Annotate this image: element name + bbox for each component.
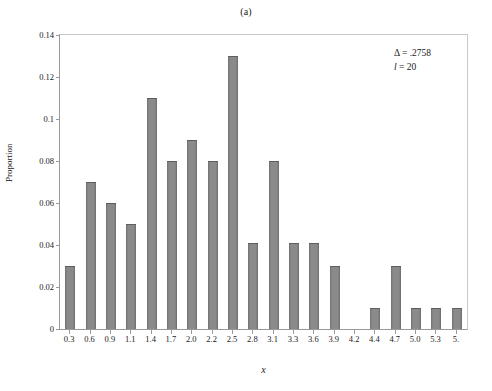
x-tick-mark xyxy=(69,330,70,334)
x-tick-label: 3.1 xyxy=(267,334,278,344)
x-tick-mark xyxy=(374,330,375,334)
figure-container: (a) Proportion 00.020.040.060.080.10.120… xyxy=(0,0,492,391)
x-tick-mark xyxy=(354,330,355,334)
x-tick-mark xyxy=(171,330,172,334)
x-tick-label: 0.9 xyxy=(105,334,116,344)
bar xyxy=(431,308,441,329)
bar xyxy=(65,266,75,329)
x-tick-label: 3.9 xyxy=(328,334,339,344)
x-tick-mark xyxy=(110,330,111,334)
bar xyxy=(187,140,197,329)
x-tick-label: 2.8 xyxy=(247,334,258,344)
bar xyxy=(309,243,319,329)
annotation-l: l = 20 xyxy=(394,60,431,74)
bar xyxy=(126,224,136,329)
x-tick-label: 0.3 xyxy=(64,334,75,344)
y-axis-title: Proportion xyxy=(4,143,14,182)
x-axis-title: x xyxy=(59,364,468,375)
x-tick-mark xyxy=(313,330,314,334)
x-tick-mark xyxy=(191,330,192,334)
x-tick-label: 5.3 xyxy=(430,334,441,344)
x-tick-mark xyxy=(395,330,396,334)
x-tick-mark xyxy=(90,330,91,334)
x-tick-label: 1.7 xyxy=(166,334,177,344)
panel-title: (a) xyxy=(0,6,492,17)
x-tick-label: 4.4 xyxy=(369,334,380,344)
bar xyxy=(167,161,177,329)
x-tick-label: 0.6 xyxy=(84,334,95,344)
y-tick-mark xyxy=(56,329,60,330)
x-tick-label: 3.3 xyxy=(288,334,299,344)
x-tick-label: 4.2 xyxy=(349,334,360,344)
plot-area: 00.020.040.060.080.10.120.14 xyxy=(59,34,468,330)
bars-layer xyxy=(60,35,467,329)
x-tick-mark xyxy=(252,330,253,334)
annotation-delta: Δ = .2758 xyxy=(394,46,431,60)
bar xyxy=(330,266,340,329)
bar xyxy=(411,308,421,329)
bar xyxy=(86,182,96,329)
chart-annotation: Δ = .2758 l = 20 xyxy=(394,46,431,74)
x-tick-label: 4.7 xyxy=(389,334,400,344)
bar xyxy=(269,161,279,329)
x-tick-mark xyxy=(151,330,152,334)
x-tick-label: 2.0 xyxy=(186,334,197,344)
bar xyxy=(106,203,116,329)
x-tick-mark xyxy=(334,330,335,334)
bar xyxy=(208,161,218,329)
x-tick-label: 3.6 xyxy=(308,334,319,344)
x-tick-mark xyxy=(415,330,416,334)
x-tick-mark xyxy=(273,330,274,334)
x-tick-mark xyxy=(232,330,233,334)
bar xyxy=(391,266,401,329)
bar xyxy=(248,243,258,329)
x-tick-label: 1.1 xyxy=(125,334,136,344)
x-tick-mark xyxy=(130,330,131,334)
bar xyxy=(452,308,462,329)
x-tick-label: 2.2 xyxy=(206,334,217,344)
bar xyxy=(370,308,380,329)
x-tick-mark xyxy=(293,330,294,334)
x-tick-label: 5. xyxy=(453,334,459,344)
x-tick-label: 1.4 xyxy=(145,334,156,344)
annotation-l-value: = 20 xyxy=(397,62,417,72)
x-tick-mark xyxy=(212,330,213,334)
x-tick-label: 2.5 xyxy=(227,334,238,344)
bar xyxy=(228,56,238,329)
x-tick-mark xyxy=(456,330,457,334)
x-tick-label: 5.0 xyxy=(410,334,421,344)
x-tick-mark xyxy=(435,330,436,334)
bar xyxy=(289,243,299,329)
bar xyxy=(147,98,157,329)
